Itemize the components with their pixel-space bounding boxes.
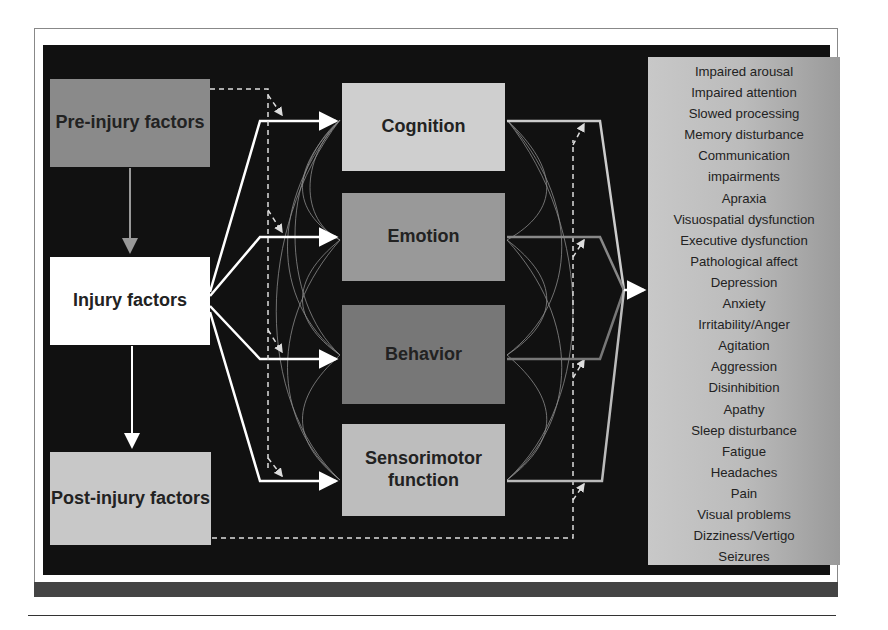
page-divider (28, 615, 836, 616)
emotion-box: Emotion (342, 193, 505, 281)
outcome-item: Sleep disturbance (648, 420, 840, 441)
outcome-item: impairments (648, 166, 840, 187)
frame-bottom-band (34, 582, 838, 597)
outcome-item: Communication (648, 145, 840, 166)
outcome-item: Disinhibition (648, 377, 840, 398)
behavior-box: Behavior (342, 305, 505, 404)
outcome-item: Pathological affect (648, 251, 840, 272)
outcome-item: Impaired arousal (648, 61, 840, 82)
outcome-item: Apathy (648, 399, 840, 420)
post-injury-factors-box: Post-injury factors (50, 452, 211, 545)
outcome-item: Visuospatial dysfunction (648, 209, 840, 230)
outcome-item: Visual problems (648, 504, 840, 525)
outcome-item: Agitation (648, 335, 840, 356)
outcome-item: Pain (648, 483, 840, 504)
outcomes-list: Impaired arousal Impaired attention Slow… (648, 57, 840, 565)
outcome-item: Irritability/Anger (648, 314, 840, 335)
outcome-item: Impaired attention (648, 82, 840, 103)
outcome-item: Fatigue (648, 441, 840, 462)
outcome-item: Headaches (648, 462, 840, 483)
outcome-item: Depression (648, 272, 840, 293)
sensorimotor-function-box: Sensorimotor function (342, 424, 505, 516)
outcome-item: Apraxia (648, 188, 840, 209)
outcome-item: Executive dysfunction (648, 230, 840, 251)
outcome-item: Aggression (648, 356, 840, 377)
cognition-box: Cognition (342, 83, 505, 171)
outcome-item: Seizures (648, 546, 840, 567)
outcome-item: Memory disturbance (648, 124, 840, 145)
outcome-item: Slowed processing (648, 103, 840, 124)
pre-injury-factors-box: Pre-injury factors (50, 79, 210, 167)
outcome-item: Anxiety (648, 293, 840, 314)
injury-factors-box: Injury factors (50, 257, 210, 345)
outcome-item: Dizziness/Vertigo (648, 525, 840, 546)
